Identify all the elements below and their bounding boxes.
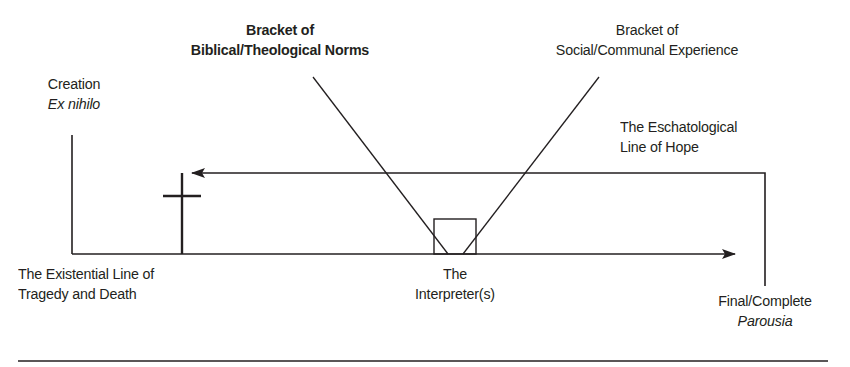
creation-label-line2: Ex nihilo [37,94,111,114]
eschatological-label: The Eschatological Line of Hope [620,117,786,157]
cross-icon [163,173,201,254]
eschatological-label-line2: Line of Hope [620,137,786,157]
eschatological-label-line1: The Eschatological [620,117,786,137]
social-bracket-label-line2: Social/Communal Experience [532,40,762,60]
existential-label: The Existential Line of Tragedy and Deat… [18,264,202,304]
biblical-bracket-line [313,77,448,254]
social-bracket-line [463,77,599,254]
creation-label: Creation Ex nihilo [37,74,111,114]
interpreter-label-line2: Interpreter(s) [400,284,510,304]
parousia-label-line2: Parousia [705,311,825,331]
social-bracket-label-line1: Bracket of [532,20,762,40]
biblical-bracket-label: Bracket of Biblical/Theological Norms [165,20,395,60]
interpreter-box [434,219,476,254]
creation-label-line1: Creation [37,74,111,94]
social-bracket-label: Bracket of Social/Communal Experience [532,20,762,60]
biblical-bracket-label-line1: Bracket of [165,20,395,40]
interpreter-label: The Interpreter(s) [400,264,510,304]
biblical-bracket-label-line2: Biblical/Theological Norms [165,40,395,60]
existential-label-line2: Tragedy and Death [18,284,202,304]
existential-label-line1: The Existential Line of [18,264,202,284]
parousia-label: Final/Complete Parousia [705,291,825,331]
interpreter-label-line1: The [400,264,510,284]
parousia-label-line1: Final/Complete [705,291,825,311]
